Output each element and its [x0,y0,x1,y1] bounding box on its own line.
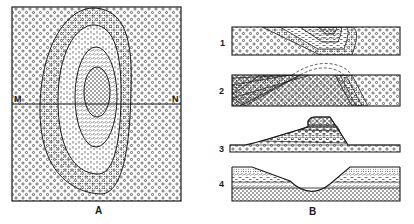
section-4-label: 4 [219,179,224,189]
section-1-label: 1 [220,38,225,48]
section-3-tick-layer [300,126,340,131]
geology-figure: M N A 1 [0,0,414,224]
panel-a-map: M N A [12,7,181,216]
label-m: M [14,94,22,104]
cross-section-4: 4 [219,160,400,201]
cross-section-1: 1 [220,27,400,55]
section-2-label: 2 [219,86,224,96]
panel-label-a: A [95,205,102,216]
panel-b-sections: 1 2 3 [219,27,400,217]
cross-section-3: 3 [219,117,400,154]
label-n: N [172,94,179,104]
cross-section-2: 2 [219,63,400,106]
panel-label-b: B [309,206,316,217]
dot-core-pattern [84,67,110,117]
section-3-cap [308,117,335,125]
section-3-label: 3 [219,144,224,154]
